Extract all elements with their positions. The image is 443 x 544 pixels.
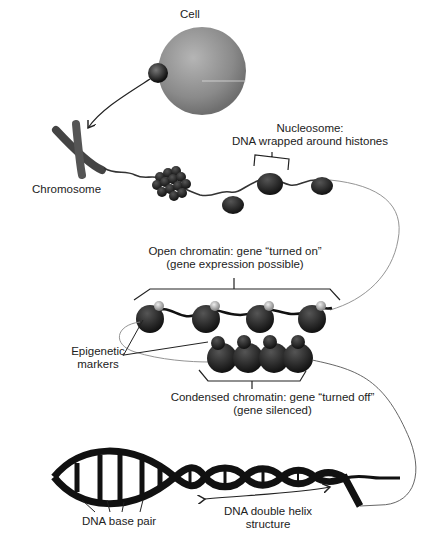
cell-to-chromosome-arrow (88, 79, 150, 128)
epigenetic-label-line1: Epigenetic (60, 345, 136, 358)
nucleosome-label: Nucleosome: DNA wrapped around histones (215, 122, 405, 148)
open-chromatin-label: Open chromatin: gene “turned on” (gene e… (135, 245, 335, 271)
condensed-label-line1: Condensed chromatin: gene “turned off” (165, 391, 380, 404)
epigenetic-marker-icon (154, 301, 326, 311)
epigenetic-label-line2: markers (60, 358, 136, 371)
condensed-nucleosomes (207, 335, 313, 373)
chromatin-diagram (0, 0, 443, 544)
double-helix-label-line1: DNA double helix (218, 505, 318, 518)
nucleosome-label-line2: DNA wrapped around histones (215, 135, 405, 148)
nucleosome-label-line1: Nucleosome: (215, 122, 405, 135)
chromatin-fiber-icon (152, 166, 191, 201)
condensed-chromatin-label: Condensed chromatin: gene “turned off” (… (165, 391, 380, 417)
base-pair-label: DNA base pair (82, 515, 156, 528)
double-helix-label-line2: structure (218, 518, 318, 531)
dna-thread-right (330, 180, 399, 310)
open-chromatin-bracket (134, 278, 340, 300)
epigenetic-markers-label: Epigenetic markers (60, 345, 136, 371)
cell-icon (148, 27, 246, 115)
dna-strand-upper (104, 168, 322, 196)
double-helix-label: DNA double helix structure (218, 505, 318, 531)
open-chromatin-label-line1: Open chromatin: gene “turned on” (135, 245, 335, 258)
chromosome-label: Chromosome (32, 183, 101, 196)
chromosome-icon (56, 124, 102, 175)
nucleosome-bracket (254, 152, 289, 170)
open-chromatin-label-line2: (gene expression possible) (135, 258, 335, 271)
cell-label: Cell (180, 8, 200, 21)
condensed-chromatin-bracket (199, 370, 306, 389)
condensed-label-line2: (gene silenced) (165, 404, 380, 417)
nucleosome-icon (222, 173, 333, 214)
